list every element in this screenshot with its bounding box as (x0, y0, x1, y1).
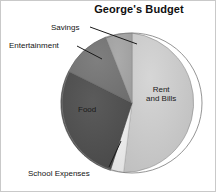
pie-chart-figure: George's Budget (0, 0, 216, 192)
slice-label-food: Food (78, 105, 96, 114)
slice-label-rent-and-bills: Rent and Bills (146, 85, 176, 103)
slice-label-rent-line2: and Bills (146, 94, 176, 103)
slice-label-school-expenses: School Expenses (28, 169, 90, 178)
slice-label-entertainment: Entertainment (9, 41, 59, 50)
pie-chart-graphic (1, 1, 216, 192)
slice-label-rent-line1: Rent (146, 85, 176, 94)
slice-label-savings: Savings (51, 23, 79, 32)
